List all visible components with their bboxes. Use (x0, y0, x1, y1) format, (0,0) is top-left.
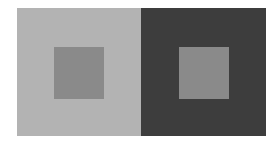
gray-square-on-light (54, 47, 104, 99)
dark-background-panel (141, 8, 266, 136)
light-background-panel (17, 8, 141, 136)
gray-square-on-dark (179, 47, 229, 99)
